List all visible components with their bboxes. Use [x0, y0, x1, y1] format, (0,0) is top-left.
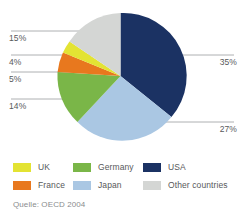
pct-label-uk: 4%: [9, 57, 22, 67]
pct-label-other-countries: 15%: [9, 33, 26, 43]
legend-label-usa: USA: [168, 162, 186, 172]
source-note: Quelle: OECD 2004: [13, 200, 85, 209]
chart-legend: UK Germany USA France Japan Other countr…: [13, 158, 235, 194]
legend-item-france[interactable]: France: [13, 176, 73, 194]
pie-chart-svg: [0, 0, 243, 150]
legend-item-usa[interactable]: USA: [143, 158, 235, 176]
legend-swatch-germany-icon: [73, 163, 91, 172]
legend-swatch-france-icon: [13, 181, 31, 190]
legend-label-germany: Germany: [98, 162, 134, 172]
pie-slices: [57, 13, 186, 141]
pie-plot-area: 15% 4% 5% 14% 35% 27%: [0, 0, 243, 150]
pct-label-usa: 35%: [220, 57, 237, 67]
pct-label-germany: 14%: [9, 101, 26, 111]
legend-swatch-usa-icon: [143, 163, 161, 172]
legend-label-japan: Japan: [98, 180, 122, 190]
legend-swatch-other-countries-icon: [143, 181, 161, 190]
legend-item-uk[interactable]: UK: [13, 158, 73, 176]
pie-chart-figure: 15% 4% 5% 14% 35% 27% UK Germany USA Fra…: [0, 0, 243, 209]
legend-label-france: France: [38, 180, 65, 190]
legend-label-uk: UK: [38, 162, 50, 172]
legend-item-germany[interactable]: Germany: [73, 158, 143, 176]
pct-label-france: 5%: [9, 74, 22, 84]
legend-item-other-countries[interactable]: Other countries: [143, 176, 235, 194]
legend-label-other-countries: Other countries: [168, 180, 228, 190]
legend-item-japan[interactable]: Japan: [73, 176, 143, 194]
pct-label-japan: 27%: [220, 124, 237, 134]
legend-swatch-uk-icon: [13, 163, 31, 172]
legend-swatch-japan-icon: [73, 181, 91, 190]
